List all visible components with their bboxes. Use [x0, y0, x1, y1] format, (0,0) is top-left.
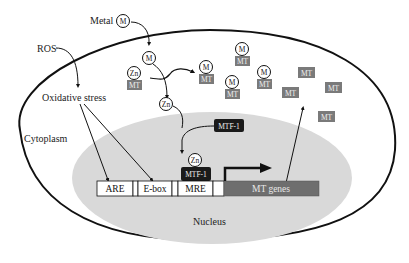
- mt-protein: MT: [318, 111, 335, 122]
- oxidative-stress-label: Oxidative stress: [42, 92, 106, 103]
- metal-entry-arrow: [131, 22, 149, 44]
- svg-text:M: M: [229, 78, 236, 87]
- svg-text:M: M: [261, 68, 268, 77]
- ros-arrow: [56, 48, 78, 86]
- mt-protein: MT: [298, 67, 315, 78]
- are-element: ARE: [106, 184, 125, 194]
- svg-text:MTF-1: MTF-1: [218, 122, 240, 131]
- svg-text:MT: MT: [237, 57, 249, 66]
- svg-text:MT: MT: [201, 75, 213, 84]
- zn-mt-complex: Zn MT: [127, 67, 142, 91]
- mt-genes-box: MT genes: [252, 184, 290, 194]
- mtf1-free: MTF-1: [214, 119, 244, 132]
- metal-mt-complex: M MT: [199, 61, 214, 85]
- svg-text:Zn: Zn: [191, 156, 200, 165]
- nucleus-label: Nucleus: [193, 216, 226, 227]
- svg-text:MT: MT: [129, 81, 141, 90]
- metal-ion-icon: M: [117, 15, 130, 28]
- metal-exchange-arrow: [150, 69, 193, 79]
- cytoplasm-label: Cytoplasm: [24, 133, 68, 144]
- svg-text:M: M: [239, 45, 246, 54]
- svg-text:MT: MT: [301, 69, 313, 78]
- ebox-element: E-box: [143, 184, 166, 194]
- svg-text:M: M: [146, 54, 153, 63]
- svg-text:M: M: [203, 63, 210, 72]
- metal-ion-icon: M: [143, 52, 156, 65]
- metal-label: Metal: [90, 15, 114, 26]
- svg-text:MT: MT: [285, 89, 297, 98]
- svg-text:M: M: [120, 17, 127, 26]
- svg-text:MT: MT: [227, 90, 239, 99]
- svg-text:MT: MT: [321, 113, 333, 122]
- zinc-ion-icon: Zn: [160, 98, 173, 111]
- metal-mt-complex: M MT: [225, 76, 240, 100]
- zinc-release-arrow: [153, 64, 167, 97]
- svg-text:Zn: Zn: [162, 100, 171, 109]
- metal-mt-complex: M MT: [235, 43, 250, 67]
- ros-label: ROS: [37, 43, 56, 54]
- mre-element: MRE: [185, 184, 206, 194]
- metal-mt-complex: M MT: [257, 66, 272, 90]
- promoter-region: ARE E-box MRE MT genes: [97, 181, 319, 196]
- mt-protein: MT: [325, 82, 342, 93]
- svg-text:MT: MT: [328, 84, 340, 93]
- diagram-canvas: Metal ROS Oxidative stress Cytoplasm Nuc…: [0, 0, 409, 263]
- svg-text:MT: MT: [259, 80, 271, 89]
- mt-protein: MT: [282, 87, 299, 98]
- svg-text:Zn: Zn: [130, 69, 139, 78]
- svg-text:MTF-1: MTF-1: [185, 170, 207, 179]
